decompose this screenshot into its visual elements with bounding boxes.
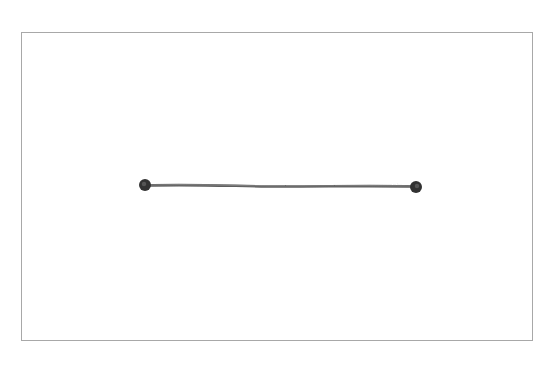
line-segment-drawing	[0, 0, 560, 373]
figure-canvas	[0, 0, 560, 373]
